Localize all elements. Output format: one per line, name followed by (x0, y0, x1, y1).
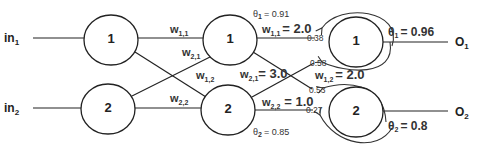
feedback-value-n1-bottom: 0.58 (310, 58, 327, 68)
threshold-l2-n2: θ2= 0.85 (253, 127, 289, 138)
neural-network-diagram: 1 2 1 2 1 2 in1 in2 O1 O2 w1,1 w2,1 w1,2… (0, 0, 485, 153)
weight-l2-w21: w2,1= 3.0 (239, 66, 288, 83)
weight-l1-w11: w1,1 (169, 23, 188, 38)
feedback-value-n2-top: 0.53 (309, 85, 326, 95)
feedback-value-n2-bottom: 0.27 (306, 105, 323, 115)
input-2-label: in2 (4, 101, 20, 117)
feedback-value-n1-top: 0.38 (307, 33, 324, 43)
weight-l1-w22: w2,2 (169, 92, 188, 107)
weight-l2-w12: w1,2= 2.0 (314, 67, 365, 84)
layer3-node-2-label: 2 (352, 103, 359, 118)
layer2-node-2-label: 2 (224, 101, 231, 116)
layer3-node-1-label: 1 (352, 33, 359, 48)
input-1-label: in1 (4, 31, 20, 47)
weight-l1-w12: w1,2 (195, 69, 214, 84)
layer1-node-2-label: 2 (104, 100, 111, 115)
threshold-l2-n1: θ1= 0.91 (253, 9, 289, 20)
weight-l2-w11: w1,1= 2.0 (261, 21, 312, 38)
output-1-label: O1 (455, 35, 469, 51)
threshold-l3-n1: θ1= 0.96 (388, 25, 434, 39)
layer2-node-1-label: 1 (226, 31, 233, 46)
threshold-l3-n2: θ2= 0.8 (388, 119, 428, 133)
output-2-label: O2 (455, 105, 469, 121)
layer1-node-1-label: 1 (107, 31, 114, 46)
weight-l1-w21: w2,1 (181, 46, 200, 61)
